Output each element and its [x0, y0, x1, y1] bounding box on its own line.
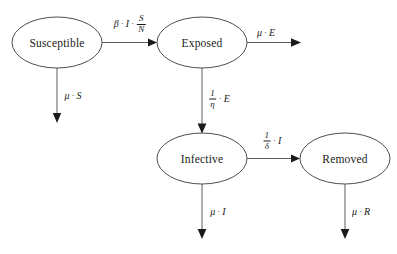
arrowhead-removed-death	[341, 229, 350, 239]
fraction-s-over-n: S N	[137, 14, 146, 34]
node-label-infective: Infective	[181, 153, 224, 165]
arrowhead-exposed-death	[291, 38, 301, 46]
mu-symbol: μ	[352, 207, 357, 217]
arrowhead-infective-death	[198, 229, 207, 239]
arrowhead-susceptible-to-exposed	[148, 39, 157, 47]
beta-symbol: β	[114, 19, 119, 29]
node-label-removed: Removed	[322, 153, 367, 165]
dot-separator: ·	[71, 91, 75, 100]
fraction-numerator: 1	[263, 131, 271, 141]
fraction-denominator: N	[137, 24, 146, 35]
infective-symbol: I	[278, 136, 281, 146]
edge-label-removed-death: μ · R	[352, 207, 370, 217]
dot-separator: ·	[217, 207, 221, 216]
fraction-denominator: η	[209, 98, 216, 109]
infective-symbol: I	[126, 19, 129, 29]
dot-separator: ·	[131, 19, 135, 28]
dot-separator: ·	[120, 19, 124, 28]
arrowhead-exposed-to-infective	[198, 124, 207, 134]
dot-separator: ·	[263, 28, 267, 37]
fraction-denominator: δ	[263, 140, 270, 151]
node-label-susceptible: Susceptible	[29, 37, 84, 49]
arrowhead-susceptible-death	[53, 113, 61, 123]
mu-symbol: μ	[257, 28, 262, 38]
edge-label-susceptible-to-exposed: β · I · S N	[114, 14, 146, 34]
infective-symbol: I	[222, 207, 225, 217]
fraction-numerator: S	[137, 14, 145, 24]
node-label-exposed: Exposed	[181, 37, 222, 49]
dot-separator: ·	[273, 136, 277, 145]
fraction-one-over-eta: 1 η	[209, 89, 217, 109]
fraction-numerator: 1	[209, 89, 217, 99]
edge-label-infective-to-removed: 1 δ · I	[263, 130, 282, 151]
edge-label-exposed-death: μ · E	[257, 28, 275, 38]
mu-symbol: μ	[64, 91, 69, 101]
mu-symbol: μ	[210, 207, 215, 217]
diagram-canvas: Susceptible Exposed Infective Removed β …	[0, 0, 397, 254]
clipped-caption-remnant	[60, 248, 340, 253]
edge-label-susceptible-death: μ · S	[64, 91, 81, 101]
susceptible-symbol: S	[77, 91, 82, 101]
edge-label-exposed-to-infective: 1 η · E	[208, 88, 230, 109]
removed-symbol: R	[364, 207, 370, 217]
arrowhead-infective-to-removed	[291, 155, 300, 163]
dot-separator: ·	[218, 94, 222, 103]
edge-label-infective-death: μ · I	[210, 207, 225, 217]
dot-separator: ·	[358, 207, 362, 216]
fraction-one-over-delta: 1 δ	[263, 131, 271, 151]
exposed-symbol: E	[224, 94, 230, 104]
exposed-symbol: E	[269, 28, 275, 38]
